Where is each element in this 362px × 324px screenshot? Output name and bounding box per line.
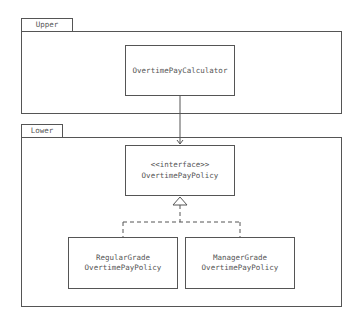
- regular-class-line2: OvertimePayPolicy: [68, 263, 178, 273]
- calculator-class-name: OvertimePayCalculator: [125, 66, 235, 76]
- policy-class-name: OvertimePayPolicy: [125, 171, 235, 181]
- policy-stereotype: <<interface>>: [125, 160, 235, 170]
- lower-package-label: Lower: [21, 126, 63, 136]
- manager-class-line2: OvertimePayPolicy: [185, 263, 295, 273]
- realization-triangle-icon: [173, 197, 187, 205]
- regular-class-line1: RegularGrade: [68, 253, 178, 263]
- upper-package-label: Upper: [21, 20, 73, 30]
- manager-class-line1: ManagerGrade: [185, 253, 295, 263]
